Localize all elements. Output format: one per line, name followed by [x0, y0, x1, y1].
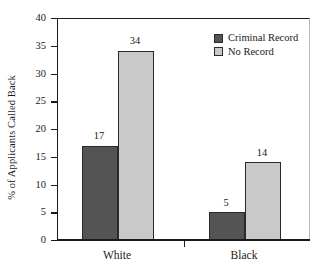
- y-tick-label-10: 10: [6, 179, 46, 190]
- y-tick-label-5: 5: [6, 207, 46, 218]
- legend-entry-criminal-record: Criminal Record: [214, 33, 298, 44]
- y-tick-label-40: 40: [6, 13, 46, 24]
- bar-black-no-record: [245, 162, 281, 240]
- legend: Criminal Record No Record: [214, 33, 298, 57]
- y-tick-label-25: 25: [6, 96, 46, 107]
- y-tick-label-30: 30: [6, 68, 46, 79]
- bar-white-criminal-record: [82, 146, 118, 240]
- bar-black-criminal-record: [209, 212, 245, 240]
- bar-value-black-no-record: 14: [242, 148, 282, 159]
- y-tick-label-0: 0: [6, 235, 46, 246]
- legend-label-criminal-record: Criminal Record: [228, 33, 298, 44]
- legend-label-no-record: No Record: [228, 47, 274, 58]
- bar-value-white-criminal-record: 17: [79, 131, 119, 142]
- legend-swatch-icon-no-record: [214, 47, 223, 56]
- y-tick-label-35: 35: [6, 41, 46, 52]
- bar-value-white-no-record: 34: [115, 36, 155, 47]
- x-category-label-black: Black: [204, 249, 284, 261]
- bar-white-no-record: [118, 51, 154, 240]
- y-tick-label-20: 20: [6, 124, 46, 135]
- legend-swatch-icon-criminal-record: [214, 34, 223, 43]
- bar-chart: % of Applicants Called Back 40 35 30 25 …: [0, 0, 325, 275]
- legend-entry-no-record: No Record: [214, 47, 298, 58]
- y-tick-label-15: 15: [6, 152, 46, 163]
- x-category-label-white: White: [77, 249, 157, 261]
- x-group-separator-tick: [184, 240, 185, 247]
- bar-value-black-criminal-record: 5: [206, 198, 246, 209]
